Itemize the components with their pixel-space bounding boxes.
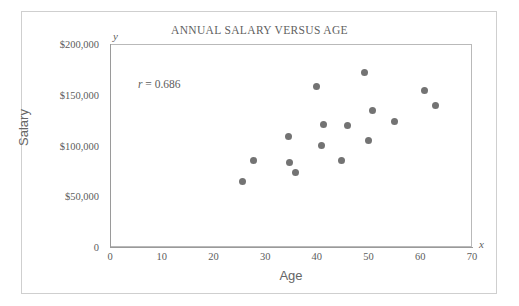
scatter-plot-figure: ANNUAL SALARY VERSUS AGE y x 0$50,000$10… bbox=[0, 0, 519, 306]
x-axis-line bbox=[110, 247, 473, 248]
data-point bbox=[344, 122, 351, 129]
data-point bbox=[318, 142, 325, 149]
data-point bbox=[320, 121, 327, 128]
y-tick-label: $150,000 bbox=[60, 89, 105, 100]
x-axis-title: Age bbox=[110, 268, 472, 283]
y-axis-line bbox=[110, 44, 111, 248]
x-tick-label: 20 bbox=[208, 251, 219, 262]
data-point bbox=[239, 178, 246, 185]
x-axis-symbol: x bbox=[479, 238, 484, 250]
x-tick-label: 60 bbox=[415, 251, 426, 262]
y-tick-label: $100,000 bbox=[60, 140, 105, 151]
y-tick-label: $50,000 bbox=[65, 191, 105, 202]
data-point bbox=[365, 137, 372, 144]
plot-area bbox=[110, 44, 472, 247]
x-tick-label: 0 bbox=[107, 251, 112, 262]
y-axis-symbol: y bbox=[113, 30, 118, 42]
y-tick-label: $200,000 bbox=[60, 39, 105, 50]
y-axis-title: Salary bbox=[16, 83, 31, 173]
x-tick-label: 50 bbox=[363, 251, 374, 262]
y-tick-label: 0 bbox=[94, 242, 105, 253]
correlation-value-text: = 0.686 bbox=[142, 78, 180, 90]
data-point bbox=[313, 83, 320, 90]
x-tick-label: 70 bbox=[467, 251, 478, 262]
x-tick-label: 30 bbox=[260, 251, 271, 262]
x-tick-label: 40 bbox=[312, 251, 323, 262]
x-tick-label: 10 bbox=[156, 251, 167, 262]
correlation-annotation: r = 0.686 bbox=[138, 78, 181, 90]
